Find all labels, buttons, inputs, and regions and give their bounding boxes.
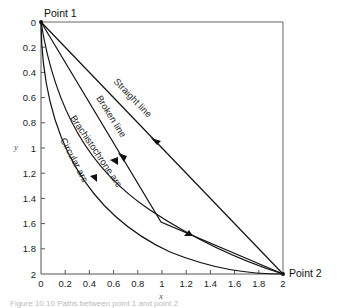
x-tick-label: 1.2 (180, 278, 193, 289)
point-1-marker (39, 20, 43, 24)
y-tick-label: 0.2 (23, 42, 36, 53)
x-tick-label: 1 (159, 278, 164, 289)
y-tick-label: 1 (31, 143, 36, 154)
y-tick-label: 1.4 (23, 193, 36, 204)
broken-line-arrow-icon (118, 153, 127, 162)
x-tick-label: 0.6 (107, 278, 120, 289)
broken-line-label: Broken line (94, 93, 129, 139)
y-tick-label: 1.8 (23, 243, 36, 254)
point-2-marker (281, 272, 285, 276)
point-2-label: Point 2 (289, 267, 322, 279)
brachistochrone-diagram: 0 0.2 0.4 0.6 0.8 1 1.2 1.4 1.6 1.8 2 x … (0, 0, 337, 308)
y-tick-label: 0.6 (23, 92, 36, 103)
x-tick-label: 0.4 (83, 278, 96, 289)
straight-line-arrow-icon (151, 138, 161, 145)
y-tick-label: 0 (31, 17, 36, 28)
x-tick-label: 0 (38, 278, 43, 289)
y-tick-label: 1.6 (23, 218, 36, 229)
y-tick-label: 0.8 (23, 117, 36, 128)
x-tick-label: 1.8 (252, 278, 265, 289)
x-tick-label: 2 (280, 278, 285, 289)
y-tick-label: 2 (31, 269, 36, 280)
point-1-label: Point 1 (44, 7, 77, 19)
x-tick-label: 0.2 (59, 278, 72, 289)
straight-line-label: Straight line (112, 76, 155, 120)
y-tick-label: 0.4 (23, 67, 36, 78)
x-ticks (65, 270, 259, 274)
arrow-icons (90, 138, 193, 236)
y-axis-label: y (13, 142, 18, 152)
figure-caption: Figure 10.10 Paths between point 1 and p… (10, 299, 179, 308)
y-ticks (41, 47, 45, 249)
y-tick-label: 1.2 (23, 168, 36, 179)
x-tick-label: 1.4 (204, 278, 217, 289)
x-tick-label: 0.8 (131, 278, 144, 289)
x-tick-label: 1.6 (228, 278, 241, 289)
straight-line-path (41, 22, 283, 274)
